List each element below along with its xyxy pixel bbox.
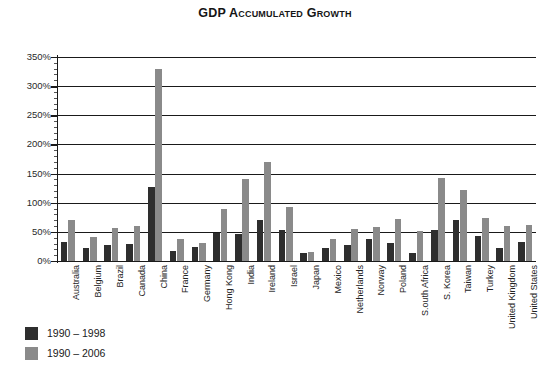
y-axis-tick-label: 100%: [5, 198, 51, 208]
bar: [61, 242, 68, 261]
bar: [177, 239, 184, 261]
x-axis-category-label: Norway: [376, 265, 386, 296]
bar-group: [83, 57, 97, 261]
x-axis-category-label: Netherlands: [355, 265, 365, 314]
bar: [235, 234, 242, 261]
bar: [409, 253, 416, 261]
bar-group: [322, 57, 336, 261]
bar: [475, 236, 482, 261]
x-axis-category-label: Japan: [311, 265, 321, 290]
bar-group: [213, 57, 227, 261]
bar: [257, 220, 264, 261]
x-axis-category-label: Turkey: [485, 265, 495, 292]
bar: [148, 187, 155, 261]
x-axis-category-label: Hong Kong: [224, 265, 234, 310]
legend-label: 1990 – 1998: [47, 327, 105, 339]
x-axis-category-label: Canada: [137, 265, 147, 297]
chart-title: GDP Accumulated Growth: [0, 6, 550, 20]
bar: [438, 178, 445, 261]
bar: [308, 252, 315, 261]
bar-group: [148, 57, 162, 261]
legend-item: 1990 – 2006: [25, 343, 105, 363]
bar: [90, 237, 97, 261]
bar-group: [431, 57, 445, 261]
bar: [395, 219, 402, 261]
x-axis-category-label: China: [159, 265, 169, 289]
bar: [279, 230, 286, 261]
x-axis-category-label: Mexico: [333, 265, 343, 294]
x-axis-category-label: Australia: [71, 265, 81, 300]
bar-group: [475, 57, 489, 261]
bar-group: [409, 57, 423, 261]
chart-figure: GDP Accumulated Growth 0%50%100%150%200%…: [0, 0, 550, 373]
bar: [68, 220, 75, 261]
bar: [322, 248, 329, 261]
x-axis-category-label: India: [246, 265, 256, 285]
y-axis-tick-label: 50%: [5, 227, 51, 237]
bar: [496, 248, 503, 261]
bar: [170, 251, 177, 261]
bar: [286, 207, 293, 261]
x-axis-category-label: United Kingdom: [507, 265, 517, 329]
bar: [112, 228, 119, 261]
bar-group: [279, 57, 293, 261]
bar-group: [366, 57, 380, 261]
bar: [213, 233, 220, 261]
bar: [431, 230, 438, 261]
bar-group: [192, 57, 206, 261]
x-axis-category-label: Germany: [202, 265, 212, 302]
bar-group: [453, 57, 467, 261]
bar: [221, 209, 228, 261]
bar: [330, 239, 337, 261]
bar-group: [387, 57, 401, 261]
bar: [300, 253, 307, 261]
y-axis-tick-label: 300%: [5, 81, 51, 91]
bar-group: [170, 57, 184, 261]
bar: [83, 248, 90, 261]
y-axis-tick-label: 200%: [5, 139, 51, 149]
y-axis-tick-label: 350%: [5, 52, 51, 62]
bar: [504, 226, 511, 261]
y-axis-tick-label: 250%: [5, 110, 51, 120]
bar: [192, 247, 199, 261]
x-axis-category-label: Taiwan: [463, 265, 473, 293]
bar: [373, 227, 380, 261]
x-axis-category-label: Ireland: [267, 265, 277, 293]
bar: [526, 225, 533, 261]
bar-group: [61, 57, 75, 261]
x-axis-category-label: S.outh Africa: [420, 265, 430, 316]
x-axis-category-label: United States: [529, 265, 539, 319]
bar-group: [126, 57, 140, 261]
bar: [104, 245, 111, 261]
x-axis-category-label: Belgium: [93, 265, 103, 298]
bar: [460, 190, 467, 261]
bar: [155, 69, 162, 261]
bar: [417, 231, 424, 261]
x-axis-category-label: France: [180, 265, 190, 293]
bar-group: [344, 57, 358, 261]
legend-swatch: [25, 347, 38, 360]
y-axis-tick-label: 150%: [5, 169, 51, 179]
bar-group: [104, 57, 118, 261]
bar: [387, 243, 394, 261]
chart-legend: 1990 – 19981990 – 2006: [25, 323, 105, 363]
y-axis-tick-labels: 0%50%100%150%200%250%300%350%: [2, 0, 51, 373]
bar: [351, 229, 358, 261]
bar-group: [257, 57, 271, 261]
bar: [482, 218, 489, 261]
bar-group: [300, 57, 314, 261]
legend-item: 1990 – 1998: [25, 323, 105, 343]
bar-group: [235, 57, 249, 261]
bar: [264, 162, 271, 261]
y-axis-tick-label: 0%: [5, 256, 51, 266]
x-axis-category-label: S. Korea: [442, 265, 452, 300]
plot-area: [57, 57, 536, 261]
bar: [366, 239, 373, 261]
bar: [126, 244, 133, 261]
bar: [453, 220, 460, 261]
x-axis-category-label: Poland: [398, 265, 408, 293]
bar: [242, 179, 249, 261]
x-axis-category-label: Brazil: [115, 265, 125, 288]
legend-label: 1990 – 2006: [47, 347, 105, 359]
bar: [518, 242, 525, 261]
